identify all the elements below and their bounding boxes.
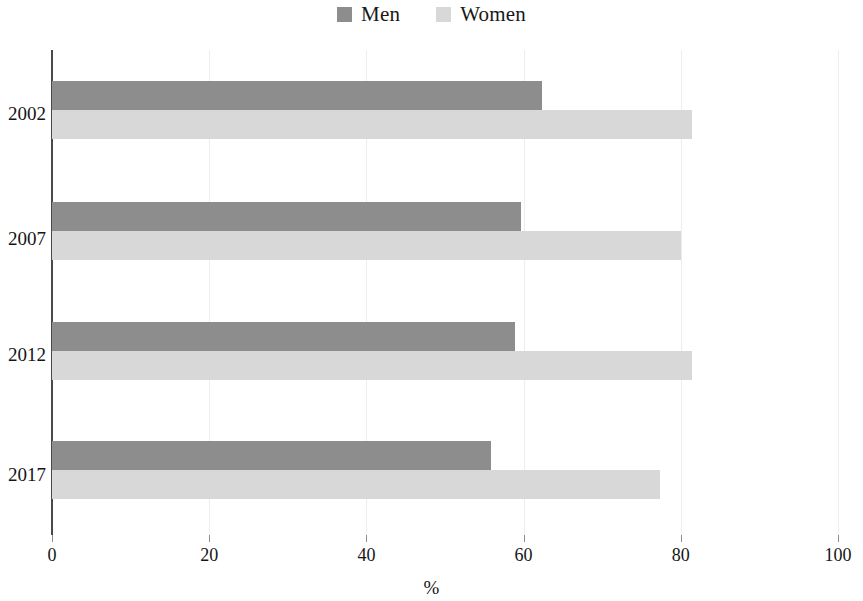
x-axis-tick-label-100: 100 — [808, 546, 863, 564]
legend-item-women: Women — [436, 4, 526, 25]
x-axis-tick-mark-60 — [524, 535, 525, 542]
bar-2012-men — [52, 322, 515, 351]
legend-swatch-men — [337, 7, 352, 22]
bar-2007-men — [52, 202, 521, 231]
bar-2002-women — [52, 110, 692, 139]
legend-label-women: Women — [460, 4, 526, 25]
x-axis-tick-label-40: 40 — [336, 546, 396, 564]
y-axis-label-2002: 2002 — [0, 104, 46, 123]
legend-swatch-women — [436, 7, 451, 22]
x-axis-title: % — [0, 578, 863, 597]
bar-chart: Men Women 2002 2007 2012 2017 0204060801… — [0, 0, 863, 601]
x-axis-tick-mark-0 — [52, 535, 53, 542]
y-axis-label-2007: 2007 — [0, 229, 46, 248]
legend-item-men: Men — [337, 4, 400, 25]
x-axis-tick-mark-40 — [366, 535, 367, 542]
x-axis-tick-label-0: 0 — [22, 546, 82, 564]
x-axis-tick-label-60: 60 — [494, 546, 554, 564]
chart-legend: Men Women — [0, 4, 863, 25]
legend-label-men: Men — [361, 4, 400, 25]
bar-2012-women — [52, 351, 692, 380]
x-axis-tick-label-20: 20 — [179, 546, 239, 564]
y-axis-label-2017: 2017 — [0, 465, 46, 484]
x-axis-tick-label-80: 80 — [651, 546, 711, 564]
bar-2002-men — [52, 81, 542, 110]
y-axis-label-2012: 2012 — [0, 345, 46, 364]
gridline-100 — [838, 50, 839, 535]
x-axis-tick-mark-80 — [681, 535, 682, 542]
x-axis-tick-mark-100 — [838, 535, 839, 542]
plot-area — [52, 50, 838, 535]
bar-2007-women — [52, 231, 681, 260]
bar-2017-women — [52, 470, 660, 499]
bar-2017-men — [52, 441, 491, 470]
x-axis-tick-mark-20 — [209, 535, 210, 542]
